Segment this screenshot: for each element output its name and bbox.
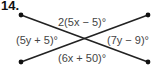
angle-right-label: (7y − 9)° — [107, 34, 149, 46]
angle-left-label: (5y + 5)° — [16, 34, 58, 46]
angle-top-label: 2(5x − 5)° — [58, 16, 106, 28]
angle-bottom-label: (6x + 50)° — [58, 52, 106, 64]
